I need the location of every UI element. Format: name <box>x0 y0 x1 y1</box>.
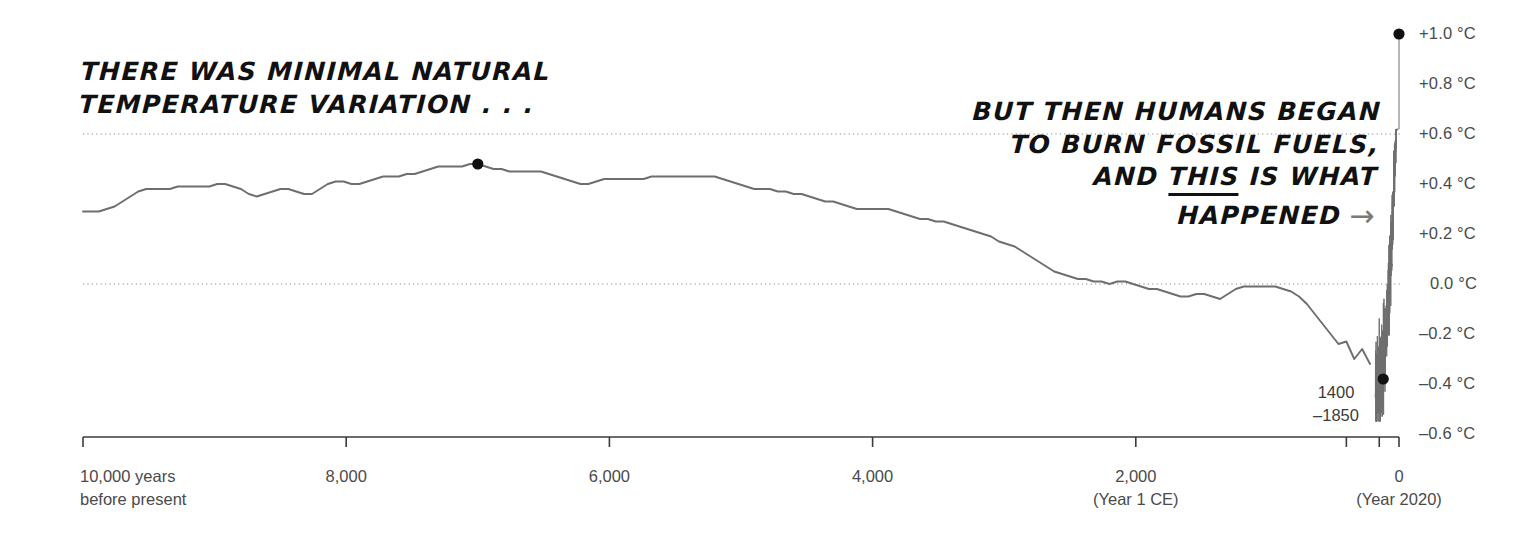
y-axis-tick-label: –0.2 °C <box>1419 324 1519 343</box>
annotation-right: BUT THEN HUMANS BEGAN TO BURN FOSSIL FUE… <box>967 96 1383 233</box>
annotation-right-line-3-suffix: IS WHAT <box>1249 162 1379 191</box>
little-ice-age-dot <box>1378 373 1389 384</box>
annotation-right-line-1: BUT THEN HUMANS BEGAN <box>972 96 1382 129</box>
annotation-right-emphasis-this: THIS <box>1168 162 1241 196</box>
x-axis-tick-label: 0 <box>1394 467 1403 485</box>
x-axis-tick-label-group: 2,000(Year 1 CE) <box>1046 465 1226 511</box>
y-axis-tick-label: –0.4 °C <box>1419 374 1519 393</box>
annotation-left-line-2: TEMPERATURE VARIATION . . . <box>78 89 550 122</box>
y-axis-tick-label: +0.6 °C <box>1419 124 1519 143</box>
little-ice-age-callout-line-1: 1400 <box>1296 381 1376 404</box>
x-axis-tick-label-group: 10,000 yearsbefore present <box>80 465 186 511</box>
little-ice-age-callout-line-2: –1850 <box>1296 404 1376 427</box>
holocene-peak-dot <box>472 158 483 169</box>
temperature-chart: THERE WAS MINIMAL NATURAL TEMPERATURE VA… <box>0 0 1531 533</box>
present-day-dot <box>1393 28 1404 39</box>
y-axis-tick-label: +0.8 °C <box>1419 74 1519 93</box>
x-axis-tick-sublabel: before present <box>80 488 186 511</box>
x-axis-tick-label-group: 0(Year 2020) <box>1309 465 1489 511</box>
y-axis-tick-label: +1.0 °C <box>1419 24 1519 43</box>
x-axis-tick-sublabel: (Year 2020) <box>1309 488 1489 511</box>
y-axis-tick-label: +0.2 °C <box>1419 224 1519 243</box>
y-axis-tick-label: +0.4 °C <box>1419 174 1519 193</box>
x-axis-tick-sublabel: (Year 1 CE) <box>1046 488 1226 511</box>
annotation-left-line-1: THERE WAS MINIMAL NATURAL <box>80 56 552 89</box>
annotation-right-line-4-text: HAPPENED <box>1177 201 1342 230</box>
x-axis-tick-label: 8,000 <box>326 467 367 485</box>
annotation-right-line-3-prefix: AND <box>1093 162 1160 191</box>
x-axis-tick-label: 10,000 years <box>80 467 175 485</box>
x-axis-tick-label-group: 4,000 <box>783 465 963 488</box>
annotation-right-line-3: AND THIS IS WHAT <box>969 161 1379 194</box>
y-axis-tick-label: –0.6 °C <box>1419 424 1519 443</box>
x-axis-tick-label: 6,000 <box>589 467 630 485</box>
arrow-right-icon: → <box>1350 196 1377 235</box>
x-axis-tick-label: 4,000 <box>852 467 893 485</box>
annotation-right-line-4: HAPPENED→ <box>967 194 1378 233</box>
annotation-right-line-2: TO BURN FOSSIL FUELS, <box>970 129 1380 162</box>
x-axis <box>83 437 1399 447</box>
little-ice-age-callout: 1400 –1850 <box>1296 381 1376 427</box>
x-axis-tick-label-group: 6,000 <box>519 465 699 488</box>
y-axis-tick-label: 0.0 °C <box>1419 274 1530 293</box>
modern-spike-line <box>1375 34 1399 422</box>
x-axis-tick-label: 2,000 <box>1115 467 1156 485</box>
x-axis-tick-label-group: 8,000 <box>256 465 436 488</box>
annotation-left: THERE WAS MINIMAL NATURAL TEMPERATURE VA… <box>78 56 552 121</box>
